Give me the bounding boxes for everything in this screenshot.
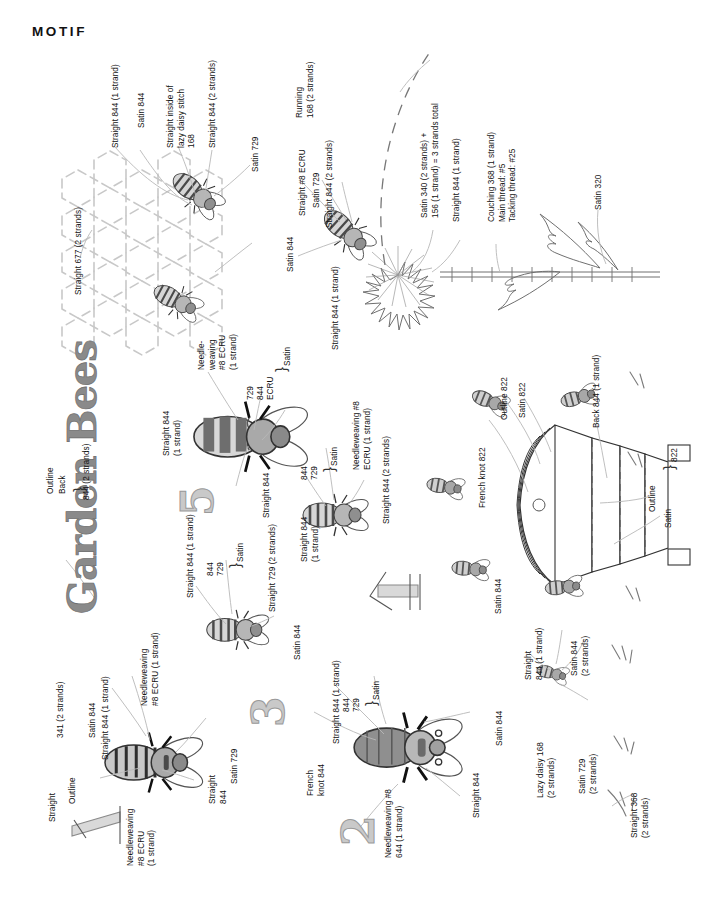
label-satin-hive: Satin — [664, 509, 675, 528]
cornflower — [363, 246, 435, 330]
label-satin-729-hc: Satin 729 — [251, 137, 262, 173]
label-satin-844-bm: Satin 844 — [495, 711, 506, 747]
label-straight-844-1: Straight 844 (1 strand) — [111, 64, 122, 148]
label-straight-844-2: Straight 844 (2 strands) — [208, 60, 219, 148]
label-straight-844-midleft: Straight 844 (1 strand) — [186, 514, 197, 598]
bee-hive-4 — [451, 554, 492, 583]
label-satin-bm: Satin — [372, 681, 383, 700]
label-satin-844-hc: Satin 844 — [137, 93, 148, 129]
label-satin-midleft: Satin — [236, 543, 247, 562]
numeral-5: 5 — [172, 485, 223, 516]
bee-honeycomb-lower — [147, 275, 209, 329]
label-729-midleft: 729 — [216, 562, 227, 576]
label-straight-844-grass: Straight 844 (1 strand) — [524, 628, 545, 680]
bee-bottom-left — [105, 732, 206, 792]
label-straight-bl: Straight — [48, 793, 59, 822]
label-back-844: Back 844 (1 strand) — [592, 355, 603, 428]
motif-sheet: MOTIF — [0, 0, 711, 903]
label-844-bm: 844 — [342, 698, 353, 712]
label-satin-844-bl: Satin 844 — [88, 703, 99, 739]
label-844-midleft: 844 — [206, 562, 217, 576]
label-straight-844-midright: Straight 844 (1 strand) — [300, 517, 321, 562]
label-outline-bl: Outline — [68, 777, 79, 804]
brace-hive: } — [660, 465, 677, 470]
marker-one — [72, 806, 120, 844]
label-straight-368: Straight 368 (2 strands) — [630, 793, 651, 838]
marker-four — [370, 572, 420, 610]
label-straight-677: Straight 677 (2 strands) — [74, 207, 85, 295]
label-straight-844-top2: Straight 844 — [262, 473, 273, 518]
leaves — [498, 214, 618, 310]
label-satin-822: Satin 822 — [518, 383, 529, 419]
brace-bm: } — [362, 701, 379, 706]
label-satin-top: Satin — [283, 347, 294, 366]
label-straight-844-1s: Straight 844 (1 strand) — [331, 266, 342, 350]
label-satin-340: Satin 340 (2 strands) + 156 (1 strand) =… — [420, 103, 441, 218]
grass-blades — [608, 372, 644, 816]
couched-stem — [440, 267, 660, 282]
label-straight-844-2s: Straight 844 (2 strands) — [325, 140, 336, 228]
label-needleweaving-bm: Needleweaving #8 644 (1 strand) — [384, 789, 405, 858]
honeycomb-grid — [62, 151, 222, 355]
numeral-2: 2 — [333, 815, 384, 846]
label-needleweaving-midleft: Needleweaving #8 ECRU (1 strand) — [140, 632, 161, 706]
bee-hive-3 — [425, 471, 468, 503]
label-title-back: Back — [58, 475, 69, 494]
label-straight-844-bm2: Straight 844 — [472, 773, 483, 818]
label-straight-844-top: Straight 844 (1 strand) — [162, 411, 183, 456]
label-341-bl: 341 (2 strands) — [56, 681, 67, 738]
bee-honeycomb-upper — [164, 162, 232, 226]
label-running-168: Running 168 (2 strands) — [295, 61, 316, 118]
label-satin-844-midleft: Satin 844 — [293, 625, 304, 661]
label-straight-844-bm: Straight 844 (1 strand) — [332, 660, 343, 744]
label-couching-368: Couching 368 (1 strand) Main thread: #5 … — [487, 132, 519, 222]
brace-midright: } — [320, 467, 337, 472]
label-needleweaving-bl: Needleweaving #8 ECRU (1 strand) — [126, 809, 158, 866]
label-satin-844-grass: Satin 844 (2 strands) — [570, 636, 591, 676]
design-title-block: Garden Bees — [44, 386, 274, 616]
label-ecru-top: ECRU — [266, 376, 277, 400]
bee-hive-5 — [544, 573, 585, 602]
label-outline-hive: Outline — [648, 485, 659, 512]
label-lazy-daisy-168: Lazy daisy 168 (2 strands) — [536, 742, 557, 798]
label-french-knot-822: French knot 822 — [478, 447, 489, 508]
brace-top-bee: } — [272, 367, 289, 372]
leader-lines-honeycomb — [80, 146, 252, 272]
label-satin-729-fl: Satin 729 — [312, 173, 323, 209]
label-satin-729-grass: Satin 729 (2 strands) — [578, 754, 599, 794]
label-straight-844-bl: Straight 844 (1 strand) — [101, 676, 112, 760]
label-729-top: 729 — [246, 386, 257, 400]
label-straight-844-bl2: Straight 844 — [208, 775, 229, 804]
label-844-midright: 844 — [300, 466, 311, 480]
label-729-bm: 729 — [352, 698, 363, 712]
label-needleweaving-midright: Needleweaving #8 ECRU (1 strand) — [352, 401, 373, 470]
label-straight-844-2s-midright: Straight 844 (2 strands) — [382, 436, 393, 524]
label-straight-844-flower: Straight 844 (1 strand) — [452, 138, 463, 222]
label-title-thread: 844 (2 strands) — [82, 443, 93, 500]
label-straight-729-midleft: Straight 729 (2 strands) — [268, 524, 279, 612]
page-title: MOTIF — [32, 24, 87, 39]
label-needleweaving-top: Needle- weaving #8 ECRU (1 strand) — [197, 334, 239, 370]
label-straight-lazydaisy: Straight inside of lazy daisy stitch 168 — [166, 85, 198, 148]
label-satin-729-bl: Satin 729 — [230, 749, 241, 785]
label-outline-822: Outline 822 — [500, 377, 511, 420]
label-729-midright: 729 — [310, 466, 321, 480]
label-french-knot-bm: French knot 844 — [306, 764, 327, 796]
label-straight-8-ecru: Straight #8 ECRU — [298, 149, 309, 216]
bee-bottom-mid — [354, 713, 466, 783]
label-822-hive: 822 — [670, 448, 681, 462]
label-satin-844-standalone: Satin 844 — [494, 579, 505, 615]
label-title-outline: Outline — [46, 467, 57, 494]
numeral-3: 3 — [243, 696, 294, 727]
leader-lines-right — [489, 398, 660, 806]
beehive — [517, 425, 690, 585]
label-satin-320: Satin 320 — [594, 175, 605, 211]
label-satin-midright: Satin — [330, 447, 341, 466]
brace-midleft: } — [226, 563, 243, 568]
label-844-top: 844 — [256, 386, 267, 400]
label-satin-844-fl: Satin 844 — [286, 237, 297, 273]
